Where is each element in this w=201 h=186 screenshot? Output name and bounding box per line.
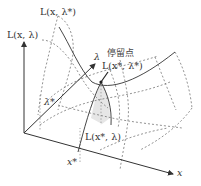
lambda-axis [24, 64, 95, 133]
saddle-point-diagram: L(x, λ*) L(x, λ) 停留点 L(x*, λ*) λ λ* L(x*… [0, 0, 201, 186]
guide-lines [40, 82, 101, 162]
label-x-star: x* [67, 156, 77, 167]
saddle-pointer [101, 72, 108, 82]
label-lambda-axis: λ [93, 51, 100, 62]
label-curve-x-lambda-star: L(x, λ*) [40, 6, 76, 17]
label-saddle-cn: 停留点 [107, 47, 134, 58]
label-x-axis: x [177, 167, 183, 178]
label-lambda-star: λ* [43, 96, 55, 107]
label-curve-x-star-lambda: L(x*, λ) [85, 131, 121, 142]
label-z-axis: L(x, λ) [7, 29, 38, 40]
shaded-slice [91, 82, 110, 124]
surface-mesh [38, 16, 192, 170]
label-saddle-point: L(x*, λ*) [102, 60, 143, 71]
